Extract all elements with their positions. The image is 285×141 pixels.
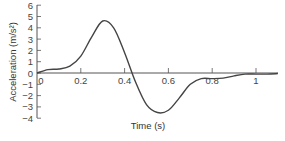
x-tick-label: 1: [253, 75, 258, 86]
y-tick-label: −1: [22, 79, 33, 90]
y-tick-label: −2: [22, 90, 33, 101]
y-tick-label: 6: [28, 0, 33, 11]
y-tick-label: −4: [22, 113, 33, 124]
chart: 6543210−1−2−3−4 00.20.40.60.81 Accelerat…: [0, 0, 285, 141]
y-tick-label: 2: [28, 45, 33, 56]
y-tick-label: 4: [28, 22, 33, 33]
x-tick-label: 0.8: [206, 75, 219, 86]
y-ticks: 6543210−1−2−3−4: [22, 0, 41, 124]
y-tick-label: −3: [22, 101, 33, 112]
x-tick-label: 0: [38, 75, 43, 86]
y-axis-label: Acceleration (m/s²): [7, 22, 18, 102]
y-tick-label: 1: [28, 56, 33, 67]
y-tick-label: 3: [28, 34, 33, 45]
x-tick-label: 0.4: [118, 75, 131, 86]
y-tick-label: 0: [28, 68, 33, 79]
acceleration-curve: [37, 21, 278, 113]
x-tick-label: 0.6: [162, 75, 175, 86]
x-axis-label: Time (s): [131, 120, 165, 131]
y-tick-label: 5: [28, 11, 33, 22]
x-tick-label: 0.2: [74, 75, 87, 86]
